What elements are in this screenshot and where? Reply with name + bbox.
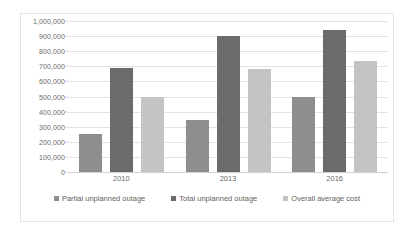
bar-group: [175, 21, 282, 172]
bar[interactable]: [248, 69, 271, 172]
plot-wrapper: 0100,000200,000300,000400,000500,000600,…: [21, 14, 393, 221]
legend-label: Partial unplanned outage: [62, 194, 145, 203]
legend-item[interactable]: Overall average cost: [283, 194, 360, 203]
plot-area: [68, 21, 388, 172]
x-axis: 201020132016: [68, 174, 388, 183]
legend-item[interactable]: Partial unplanned outage: [54, 194, 145, 203]
y-axis-tick-label: 700,000: [39, 63, 65, 70]
bar[interactable]: [292, 97, 315, 172]
legend-swatch-icon: [171, 196, 176, 201]
x-axis-category-label: 2010: [68, 174, 175, 183]
bar[interactable]: [217, 36, 240, 172]
bar[interactable]: [79, 134, 102, 172]
y-axis-tick-label: 1,000,000: [33, 18, 65, 25]
bar-group: [281, 21, 388, 172]
y-axis: 0100,000200,000300,000400,000500,000600,…: [21, 21, 69, 172]
y-axis-tick-label: 300,000: [39, 123, 65, 130]
y-axis-tick-label: 800,000: [39, 48, 65, 55]
y-axis-tick-label: 400,000: [39, 108, 65, 115]
bar[interactable]: [323, 30, 346, 172]
bar[interactable]: [141, 97, 164, 173]
x-axis-category-label: 2016: [281, 174, 388, 183]
legend-label: Overall average cost: [291, 194, 360, 203]
bar-group: [68, 21, 175, 172]
legend-label: Total unplanned outage: [179, 194, 257, 203]
y-axis-tick-label: 600,000: [39, 78, 65, 85]
y-axis-tick-label: 200,000: [39, 138, 65, 145]
bar-series-container: [68, 21, 388, 172]
chart-container: 0100,000200,000300,000400,000500,000600,…: [20, 13, 394, 222]
legend-swatch-icon: [283, 196, 288, 201]
y-axis-tick-label: 900,000: [39, 33, 65, 40]
chart-legend: Partial unplanned outageTotal unplanned …: [21, 194, 393, 203]
legend-item[interactable]: Total unplanned outage: [171, 194, 257, 203]
bar[interactable]: [110, 68, 133, 172]
bar[interactable]: [354, 61, 377, 172]
y-axis-tick-label: 500,000: [39, 93, 65, 100]
y-axis-tick-label: 100,000: [39, 153, 65, 160]
bar[interactable]: [186, 120, 209, 172]
legend-swatch-icon: [54, 196, 59, 201]
x-axis-category-label: 2013: [175, 174, 282, 183]
axis-baseline: [68, 172, 388, 173]
